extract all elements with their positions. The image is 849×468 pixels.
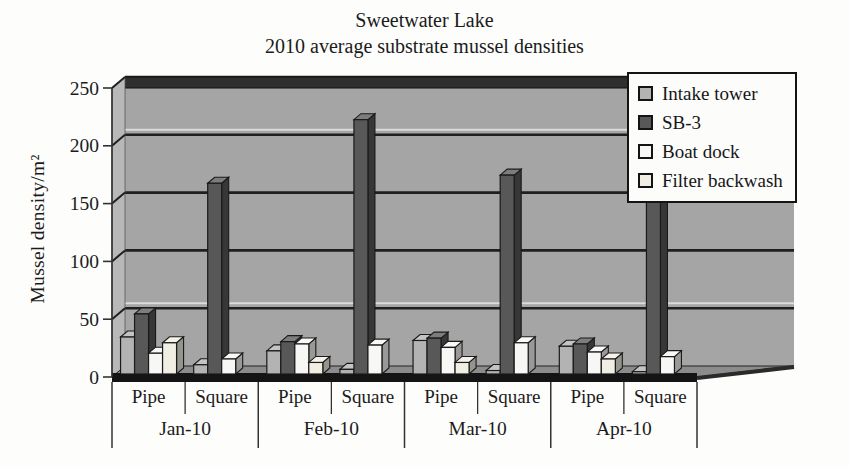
x-substrate-label-square-apr-10: Square (634, 386, 687, 407)
y-tick-label-150: 150 (70, 193, 99, 214)
legend-item-boat-dock: Boat dock (638, 137, 783, 166)
bar-filter-backwash-jan-10-pipe (163, 343, 177, 374)
bar-boat-dock-jan-10-pipe (149, 353, 163, 374)
bar-sb-3-feb-10-pipe (281, 342, 295, 374)
bar-sb-3-feb-10-square-side (368, 114, 375, 374)
y-tick-label-50: 50 (80, 309, 100, 330)
bar-filter-backwash-feb-10-pipe (309, 362, 323, 374)
y-tick-label-250: 250 (70, 78, 99, 99)
y-tick-label-100: 100 (70, 251, 99, 272)
bar-intake-tower-apr-10-pipe (559, 346, 573, 374)
legend-label: Intake tower (662, 83, 757, 105)
bar-intake-tower-feb-10-square (340, 369, 354, 374)
bar-intake-tower-feb-10-pipe (267, 351, 281, 374)
legend-label: Filter backwash (662, 170, 783, 192)
x-substrate-label-pipe-jan-10: Pipe (132, 386, 166, 407)
bar-sb-3-apr-10-square (646, 201, 660, 374)
bar-sb-3-mar-10-square (500, 175, 514, 374)
bar-intake-tower-jan-10-square (194, 365, 208, 374)
bar-sb-3-apr-10-pipe (573, 344, 587, 374)
bar-intake-tower-apr-10-square (632, 372, 646, 374)
bar-sb-3-jan-10-square-side (222, 177, 229, 374)
bar-intake-tower-jan-10-pipe (121, 337, 135, 374)
x-substrate-label-square-jan-10: Square (195, 386, 248, 407)
bar-boat-dock-mar-10-pipe (441, 347, 455, 374)
legend-label: SB-3 (662, 112, 701, 134)
bar-filter-backwash-mar-10-pipe (455, 362, 469, 374)
legend-item-intake-tower: Intake tower (638, 79, 783, 108)
legend-item-sb3: SB-3 (638, 108, 783, 137)
x-month-label-mar-10: Mar-10 (449, 418, 507, 439)
x-month-label-jan-10: Jan-10 (159, 418, 211, 439)
bar-intake-tower-mar-10-square (486, 371, 500, 374)
x-substrate-label-pipe-apr-10: Pipe (570, 386, 604, 407)
x-substrate-label-square-mar-10: Square (488, 386, 541, 407)
bar-boat-dock-jan-10-square (222, 359, 236, 374)
filter-backwash-swatch-icon (638, 173, 653, 188)
sb3-swatch-icon (638, 115, 653, 130)
intake-tower-swatch-icon (638, 86, 653, 101)
y-tick-label-0: 0 (89, 367, 99, 388)
bar-boat-dock-apr-10-square (660, 357, 674, 374)
bar-sb-3-mar-10-pipe (427, 338, 441, 374)
y-tick-label-200: 200 (70, 135, 99, 156)
bar-boat-dock-mar-10-square (514, 343, 528, 374)
bar-filter-backwash-apr-10-pipe (601, 359, 615, 374)
plot-left-wall (112, 77, 125, 377)
bar-boat-dock-feb-10-square (368, 345, 382, 374)
bar-boat-dock-apr-10-pipe (587, 352, 601, 374)
bar-boat-dock-feb-10-pipe (295, 344, 309, 374)
x-month-label-apr-10: Apr-10 (596, 418, 652, 439)
bar-sb-3-feb-10-square (354, 120, 368, 374)
legend: Intake tower SB-3 Boat dock Filter backw… (627, 72, 797, 203)
x-substrate-label-square-feb-10: Square (342, 386, 395, 407)
mussel-density-3d-bar-chart: 050100150200250PipeSquareJan-10PipeSquar… (0, 0, 849, 468)
legend-label: Boat dock (662, 141, 740, 163)
bar-intake-tower-mar-10-pipe (413, 340, 427, 374)
x-substrate-label-pipe-feb-10: Pipe (278, 386, 312, 407)
scanned-chart-page: Sweetwater Lake 2010 average substrate m… (0, 0, 849, 468)
bar-sb-3-jan-10-pipe (135, 314, 149, 374)
x-month-label-feb-10: Feb-10 (304, 418, 359, 439)
bar-sb-3-jan-10-square (208, 183, 222, 374)
boat-dock-swatch-icon (638, 144, 653, 159)
legend-item-filter-backwash: Filter backwash (638, 166, 783, 195)
bar-sb-3-apr-10-square-side (660, 195, 667, 374)
x-substrate-label-pipe-mar-10: Pipe (424, 386, 458, 407)
